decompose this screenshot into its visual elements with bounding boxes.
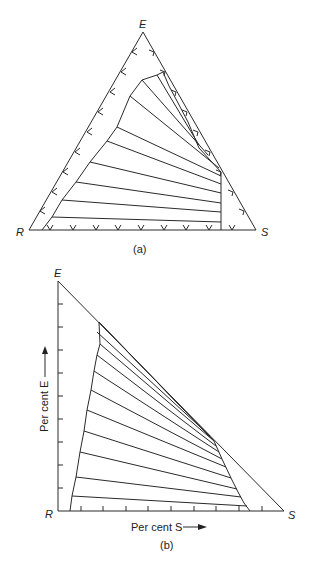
- y-axis-ticks: [58, 304, 63, 488]
- y-axis-label: Per cent E: [38, 381, 50, 432]
- diagram-b: E R S Per cent E Per cent S (b): [38, 267, 296, 551]
- vertex-r-label-b: R: [45, 508, 53, 520]
- binodal-curve: [42, 72, 221, 230]
- ticks-right: [149, 50, 244, 215]
- ternary-diagrams: E R S (a): [0, 0, 312, 563]
- diagram-a: E R S (a): [16, 18, 269, 255]
- vertex-r-label: R: [16, 226, 24, 238]
- x-axis-label: Per cent S: [131, 521, 182, 533]
- binodal-curve-b: [70, 322, 250, 511]
- x-axis-ticks: [81, 506, 262, 511]
- tie-lines-a: [52, 75, 221, 222]
- vertex-e-label-b: E: [54, 267, 62, 279]
- caption-a: (a): [133, 243, 146, 255]
- arrow-right-icon: [198, 524, 207, 530]
- vertex-s-label-b: S: [288, 509, 296, 521]
- vertex-e-label: E: [139, 18, 147, 30]
- vertex-s-label: S: [261, 226, 269, 238]
- caption-b: (b): [160, 539, 173, 551]
- arrow-up-icon: [42, 346, 48, 354]
- ticks-bottom: [47, 225, 235, 230]
- y-axis-label-group: Per cent E: [38, 346, 50, 432]
